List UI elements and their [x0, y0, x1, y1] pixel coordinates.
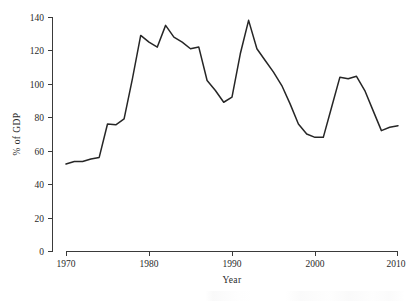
- data-series-line: [66, 20, 398, 164]
- y-tick-label-40: 40: [35, 180, 45, 190]
- y-axis-tick-labels: 140 120 100 80 60 40 20 0: [30, 13, 45, 257]
- x-tick-label-1970: 1970: [57, 259, 76, 269]
- y-tick-label-100: 100: [30, 80, 45, 90]
- y-tick-label-0: 0: [39, 247, 44, 257]
- y-tick-label-60: 60: [35, 147, 45, 157]
- chart-container: 140 120 100 80 60 40 20 0 % of GDP 1970: [0, 0, 414, 304]
- x-tick-label-2010: 2010: [387, 259, 406, 269]
- x-tick-label-2000: 2000: [306, 259, 325, 269]
- y-axis-ticks: [48, 17, 53, 251]
- x-axis-title: Year: [222, 275, 242, 285]
- y-tick-label-80: 80: [35, 113, 45, 123]
- y-axis-title: % of GDP: [12, 113, 22, 156]
- y-tick-label-140: 140: [30, 13, 45, 23]
- x-tick-label-1980: 1980: [140, 259, 159, 269]
- x-axis-group: 1970 1980 1990 2000 2010 Year: [57, 252, 406, 286]
- x-axis-ticks: [67, 252, 398, 257]
- y-tick-label-120: 120: [30, 46, 45, 56]
- y-axis-group: 140 120 100 80 60 40 20 0 % of GDP: [12, 13, 53, 257]
- line-chart: 140 120 100 80 60 40 20 0 % of GDP 1970: [0, 0, 414, 304]
- x-tick-label-1990: 1990: [223, 259, 242, 269]
- x-axis-tick-labels: 1970 1980 1990 2000 2010: [57, 259, 406, 269]
- y-tick-label-20: 20: [35, 214, 45, 224]
